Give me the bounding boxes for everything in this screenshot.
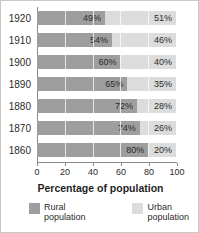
- y-axis-year-labels: 1920191019001890188018701860: [1, 7, 34, 161]
- chart-row: 72%28%: [37, 95, 176, 117]
- chart-row: 80%20%: [37, 139, 176, 161]
- x-axis-tick-label: 100: [169, 167, 184, 177]
- bar-value-label-rural: 74%: [118, 124, 136, 133]
- chart-row: 54%46%: [37, 29, 176, 51]
- x-axis-tick: [177, 163, 178, 166]
- bar-value-label-urban: 35%: [154, 80, 172, 89]
- stacked-bar: 60%40%: [37, 55, 176, 69]
- bar-segment-rural: 74%: [37, 121, 140, 135]
- bar-segment-rural: 60%: [37, 55, 120, 69]
- bar-segment-rural: 49%: [37, 11, 105, 25]
- legend-entry-rural: Rural population: [29, 202, 86, 222]
- legend-label-urban: Urban population: [147, 202, 189, 222]
- bar-value-label-urban: 20%: [154, 146, 172, 155]
- stacked-bar: 72%28%: [37, 99, 176, 113]
- bar-segment-rural: 54%: [37, 33, 112, 47]
- bar-segment-urban: 26%: [140, 121, 176, 135]
- stacked-bar: 74%26%: [37, 121, 176, 135]
- bar-value-label-urban: 46%: [154, 36, 172, 45]
- bar-value-label-rural: 54%: [90, 36, 108, 45]
- chart-row: 65%35%: [37, 73, 176, 95]
- bar-segment-rural: 65%: [37, 77, 127, 91]
- chart-row: 60%40%: [37, 51, 176, 73]
- bar-value-label-urban: 40%: [154, 58, 172, 67]
- y-axis-label: 1920: [1, 7, 34, 29]
- y-axis-label: 1860: [1, 139, 34, 161]
- legend-swatch-rural-icon: [29, 203, 40, 214]
- chart-row: 49%51%: [37, 7, 176, 29]
- bar-segment-urban: 40%: [120, 55, 176, 69]
- x-axis-tick-label: 60: [116, 167, 126, 177]
- x-axis-tick: [149, 163, 150, 166]
- x-axis-tick-label: 40: [88, 167, 98, 177]
- x-axis-tick-labels: 020406080100: [37, 167, 177, 179]
- x-axis-tick-label: 80: [144, 167, 154, 177]
- bar-value-label-rural: 65%: [105, 80, 123, 89]
- x-axis-tick: [65, 163, 66, 166]
- legend-swatch-urban-icon: [132, 203, 143, 214]
- plot-area: 49%51%54%46%60%40%65%35%72%28%74%26%80%2…: [37, 7, 176, 161]
- bar-segment-urban: 35%: [127, 77, 176, 91]
- chart-row: 74%26%: [37, 117, 176, 139]
- y-axis-label: 1910: [1, 29, 34, 51]
- chart-figure: 1920191019001890188018701860 49%51%54%46…: [0, 0, 199, 233]
- legend-label-rural-line2: population: [44, 212, 86, 222]
- stacked-bar: 54%46%: [37, 33, 176, 47]
- bar-value-label-urban: 28%: [154, 102, 172, 111]
- legend-label-urban-line2: population: [147, 212, 189, 222]
- x-axis-tick: [37, 163, 38, 166]
- stacked-bar: 49%51%: [37, 11, 176, 25]
- x-axis-title: Percentage of population: [1, 182, 199, 194]
- bar-value-label-urban: 51%: [154, 14, 172, 23]
- bar-segment-urban: 28%: [137, 99, 176, 113]
- legend-entry-urban: Urban population: [132, 202, 189, 222]
- y-axis-label: 1890: [1, 73, 34, 95]
- legend-label-rural-line1: Rural: [44, 202, 66, 212]
- x-axis-tick-label: 20: [60, 167, 70, 177]
- bar-segment-rural: 80%: [37, 143, 148, 157]
- bar-segment-urban: 46%: [112, 33, 176, 47]
- y-axis-label: 1870: [1, 117, 34, 139]
- x-axis-tick-label: 0: [34, 167, 39, 177]
- bar-segment-rural: 72%: [37, 99, 137, 113]
- stacked-bar: 80%20%: [37, 143, 176, 157]
- bar-value-label-rural: 49%: [83, 14, 101, 23]
- bar-value-label-rural: 60%: [98, 58, 116, 67]
- bar-value-label-rural: 72%: [115, 102, 133, 111]
- legend-label-rural: Rural population: [44, 202, 86, 222]
- bar-value-label-urban: 26%: [154, 124, 172, 133]
- x-axis-tick: [121, 163, 122, 166]
- y-axis-label: 1880: [1, 95, 34, 117]
- bar-value-label-rural: 80%: [126, 146, 144, 155]
- chart-legend: Rural population Urban population: [29, 202, 189, 222]
- y-axis-label: 1900: [1, 51, 34, 73]
- bar-segment-urban: 20%: [148, 143, 176, 157]
- bar-segment-urban: 51%: [105, 11, 176, 25]
- legend-label-urban-line1: Urban: [147, 202, 172, 212]
- x-axis-tick: [93, 163, 94, 166]
- stacked-bar: 65%35%: [37, 77, 176, 91]
